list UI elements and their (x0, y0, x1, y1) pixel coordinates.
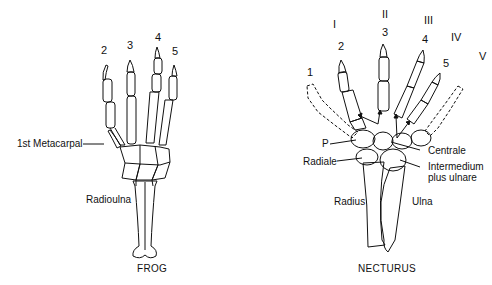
necturus-digit-3-label: 3 (382, 27, 388, 38)
necturus-digit-1-label: 1 (307, 67, 313, 78)
roman-numeral-I: I (333, 19, 336, 30)
frog-digit-5-label: 5 (172, 46, 178, 57)
necturus-digit-2-label: 2 (338, 41, 344, 52)
roman-numeral-III: III (424, 15, 433, 26)
radius-label: Radius (334, 196, 365, 207)
radiale-label: Radiale (303, 156, 337, 167)
centrale-label: Centrale (428, 145, 466, 156)
first-metacarpal-label: 1st Metacarpal (17, 138, 83, 149)
frog-digit-4-label: 4 (155, 32, 161, 43)
necturus-digit-5-label: 5 (443, 58, 449, 69)
roman-numeral-IV: IV (451, 32, 461, 43)
frog-caption: FROG (137, 263, 167, 274)
frog-digit-3-label: 3 (127, 40, 133, 51)
roman-numeral-II: II (382, 9, 388, 20)
comparative-forelimb-diagram: 2 3 4 5 1st Metacarpal Radioulna FROG 1 … (0, 0, 492, 285)
radioulna-label: Radioulna (86, 194, 131, 205)
intermedium-label-line2: plus ulnare (428, 172, 477, 183)
ulna-label: Ulna (412, 196, 433, 207)
intermedium-label-line1: Intermedium (428, 161, 484, 172)
developmental-arrows (358, 110, 410, 138)
p-label: P (322, 138, 329, 149)
necturus-caption: NECTURUS (358, 263, 416, 274)
roman-numeral-V: V (479, 51, 486, 62)
necturus-digit-4-label: 4 (422, 34, 428, 45)
frog-hand-drawing (83, 47, 177, 258)
frog-digit-2-label: 2 (101, 45, 107, 56)
